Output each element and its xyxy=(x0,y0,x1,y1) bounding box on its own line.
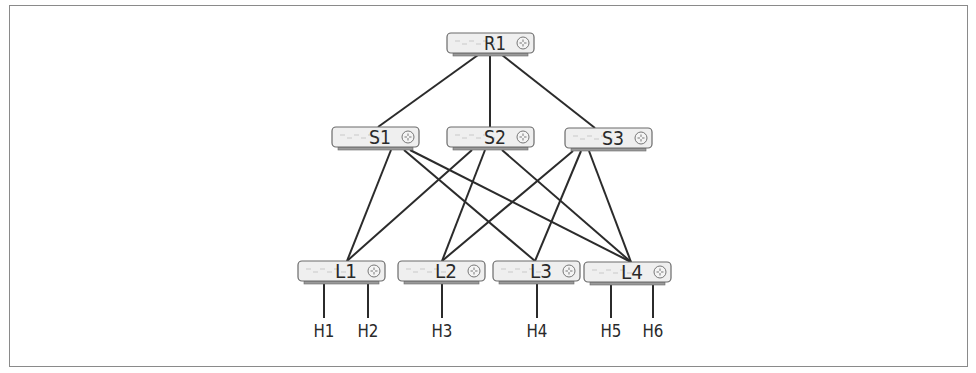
router-texture xyxy=(476,137,481,139)
router-texture xyxy=(476,43,481,45)
router-l4[interactable]: L4 xyxy=(584,261,671,285)
router-texture xyxy=(354,134,359,136)
link-r1-s3 xyxy=(502,55,595,128)
router-texture xyxy=(327,271,332,273)
router-s3[interactable]: S3 xyxy=(565,127,652,151)
router-texture xyxy=(573,135,578,137)
router-texture xyxy=(420,268,425,270)
router-texture xyxy=(413,271,418,273)
link-s1-l1 xyxy=(347,150,391,261)
router-icon xyxy=(654,266,666,278)
router-texture xyxy=(469,40,474,42)
router-texture xyxy=(306,268,311,270)
router-l3[interactable]: L3 xyxy=(493,260,580,284)
router-texture xyxy=(455,134,460,136)
link-s3-l4 xyxy=(589,151,631,262)
router-texture xyxy=(340,134,345,136)
router-icon xyxy=(635,132,647,144)
router-texture xyxy=(592,269,597,271)
link-r1-s1 xyxy=(378,55,478,127)
router-texture xyxy=(599,272,604,274)
router-label: L3 xyxy=(530,260,552,282)
router-s2[interactable]: S2 xyxy=(447,126,534,150)
link-s1-l3 xyxy=(404,150,535,261)
router-texture xyxy=(580,138,585,140)
network-topology-diagram: R1S1S2S3L1L2L3L4H1H2H3H4H5H6 xyxy=(0,0,976,373)
router-texture xyxy=(469,134,474,136)
host-label-h6: H6 xyxy=(643,320,664,341)
router-texture xyxy=(361,137,366,139)
router-icon xyxy=(402,131,414,143)
link-s2-l1 xyxy=(347,150,472,261)
host-label-h4: H4 xyxy=(527,320,548,341)
host-label-h5: H5 xyxy=(601,320,622,341)
router-texture xyxy=(515,268,520,270)
router-texture xyxy=(501,268,506,270)
link-s3-l2 xyxy=(442,151,573,261)
router-label: S1 xyxy=(369,126,391,148)
router-s1[interactable]: S1 xyxy=(332,126,419,150)
router-texture xyxy=(594,138,599,140)
router-texture xyxy=(427,271,432,273)
router-label: L4 xyxy=(621,261,643,283)
router-label: R1 xyxy=(484,32,506,54)
router-icon xyxy=(468,265,480,277)
router-texture xyxy=(613,272,618,274)
router-icon xyxy=(517,131,529,143)
router-icon xyxy=(563,265,575,277)
host-label-h2: H2 xyxy=(358,320,379,341)
router-texture xyxy=(462,43,467,45)
router-texture xyxy=(455,40,460,42)
router-label: S3 xyxy=(602,127,624,149)
router-texture xyxy=(406,268,411,270)
router-r1[interactable]: R1 xyxy=(447,32,534,56)
router-texture xyxy=(313,271,318,273)
link-s2-l2 xyxy=(442,150,485,261)
router-label: L1 xyxy=(335,260,357,282)
router-l1[interactable]: L1 xyxy=(298,260,385,284)
router-label: S2 xyxy=(484,126,506,148)
router-texture xyxy=(587,135,592,137)
router-label: L2 xyxy=(435,260,457,282)
router-icon xyxy=(368,265,380,277)
link-s3-l3 xyxy=(535,151,581,261)
router-l2[interactable]: L2 xyxy=(398,260,485,284)
host-label-h3: H3 xyxy=(432,320,453,341)
router-icon xyxy=(517,37,529,49)
router-texture xyxy=(462,137,467,139)
router-texture xyxy=(320,268,325,270)
router-texture xyxy=(508,271,513,273)
router-texture xyxy=(606,269,611,271)
router-texture xyxy=(347,137,352,139)
host-label-h1: H1 xyxy=(314,320,335,341)
nodes-layer: R1S1S2S3L1L2L3L4H1H2H3H4H5H6 xyxy=(298,32,671,341)
router-texture xyxy=(522,271,527,273)
